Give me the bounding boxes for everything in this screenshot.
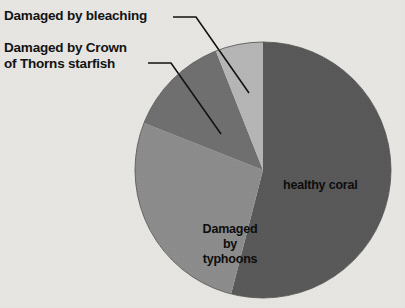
slice-label-typhoons: Damaged by typhoons bbox=[186, 222, 274, 267]
callout-label-bleaching: Damaged by bleaching bbox=[4, 8, 147, 24]
chart-canvas: Damaged by bleaching Damaged by Crown of… bbox=[0, 0, 405, 308]
slice-label-healthy-coral: healthy coral bbox=[283, 178, 358, 193]
callout-label-crown-of-thorns: Damaged by Crown of Thorns starfish bbox=[4, 40, 127, 72]
